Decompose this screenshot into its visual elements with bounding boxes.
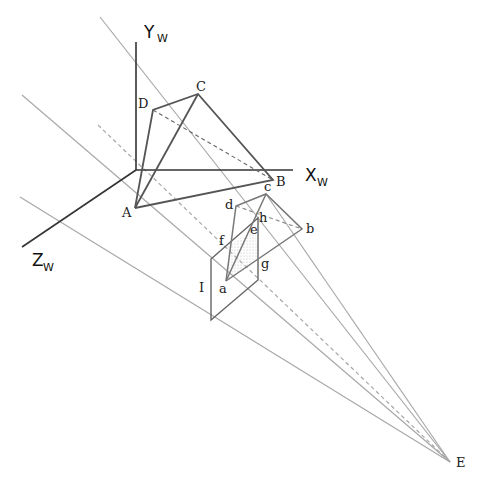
edge-AC — [135, 94, 198, 208]
label-e: e — [250, 222, 258, 237]
diagram-canvas: Y W X W Z W A B C D a b c d e f g h I E — [0, 0, 485, 489]
world-axes — [22, 42, 293, 247]
x-axis-subscript: W — [317, 176, 328, 189]
z-axis-subscript: W — [43, 261, 54, 274]
label-d: d — [225, 197, 233, 212]
label-a: a — [219, 281, 227, 296]
x-axis-label: X — [305, 165, 317, 185]
ray-top — [100, 17, 450, 462]
edge-db-hidden — [236, 206, 302, 229]
perspective-diagram: Y W X W Z W A B C D a b c d e f g h I E — [0, 0, 485, 489]
y-axis-label: Y — [143, 22, 155, 42]
z-axis-label: Z — [32, 250, 44, 270]
ray-lower — [20, 197, 450, 462]
label-g: g — [261, 256, 269, 271]
label-f: f — [219, 233, 225, 248]
label-h: h — [259, 210, 268, 225]
label-image-plane: I — [199, 280, 204, 295]
projection-rays — [20, 17, 450, 462]
ray-hidden — [98, 125, 450, 462]
label-D: D — [138, 96, 148, 111]
label-b: b — [306, 221, 314, 236]
ray-upper — [22, 95, 450, 462]
label-B: B — [276, 174, 286, 189]
object-tetrahedron — [135, 94, 273, 208]
label-c: c — [264, 179, 271, 194]
label-A: A — [121, 205, 132, 220]
label-eye: E — [456, 455, 466, 470]
label-C: C — [196, 79, 206, 94]
y-axis-subscript: W — [157, 32, 168, 45]
